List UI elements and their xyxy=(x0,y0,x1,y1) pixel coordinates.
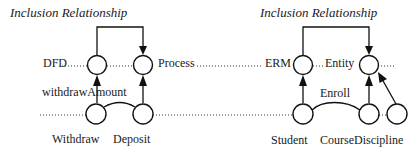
node-label-course: Course xyxy=(320,133,354,147)
node-label-deposit: Deposit xyxy=(113,132,151,146)
node-discipline xyxy=(387,104,407,124)
node-label-erm: ERM xyxy=(265,56,291,70)
node-entity xyxy=(360,56,379,75)
edge-label-enroll: Enroll xyxy=(320,86,351,100)
arrowhead-up-icon xyxy=(139,75,147,86)
right-title: Inclusion Relationship xyxy=(259,5,378,20)
node-withdraw xyxy=(86,104,106,124)
node-course xyxy=(359,104,379,124)
node-student xyxy=(293,104,313,124)
edge-label-withdrawamount: withdrawAmount xyxy=(42,85,127,99)
node-dfd xyxy=(88,56,107,75)
node-erm xyxy=(294,56,313,75)
right-panel: Inclusion Relationship ERM Entity Enroll… xyxy=(259,5,407,147)
node-label-process: Process xyxy=(158,56,195,70)
node-label-dfd: DFD xyxy=(43,56,67,70)
right-inclusion-bracket xyxy=(303,27,369,55)
arrowhead-down-icon xyxy=(139,46,147,55)
arrow-discipline-to-entity xyxy=(382,79,396,104)
left-title: Inclusion Relationship xyxy=(9,5,128,20)
node-label-entity: Entity xyxy=(325,56,354,70)
relationship-curve xyxy=(312,103,360,111)
node-process xyxy=(134,56,153,75)
arrowhead-diagonal-icon xyxy=(378,72,387,83)
arrowhead-down-icon xyxy=(365,46,373,55)
node-deposit xyxy=(133,104,153,124)
node-label-student: Student xyxy=(271,133,308,147)
node-label-discipline: Discipline xyxy=(354,133,403,147)
node-label-withdraw: Withdraw xyxy=(52,132,100,146)
relationship-curve xyxy=(104,103,135,108)
inclusion-relationship-diagram: Inclusion Relationship DFD Process withd… xyxy=(0,0,420,157)
arrowhead-up-icon xyxy=(299,75,307,86)
left-inclusion-bracket xyxy=(97,27,143,55)
left-panel: Inclusion Relationship DFD Process withd… xyxy=(9,5,195,146)
arrowhead-up-icon xyxy=(365,75,373,86)
